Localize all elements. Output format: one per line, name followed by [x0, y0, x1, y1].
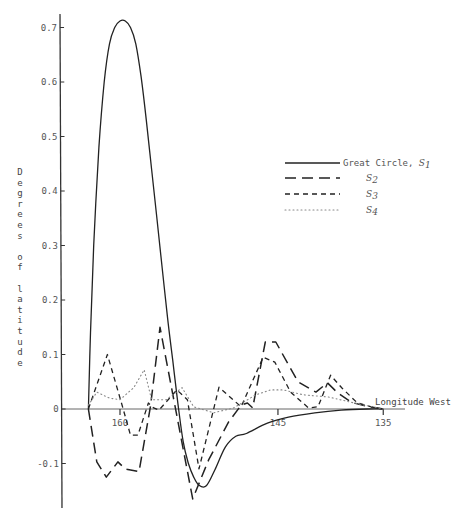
y-label-char: f: [17, 262, 22, 272]
series-s4: [88, 370, 383, 413]
y-label-char: t: [17, 326, 22, 336]
y-tick-label: 0.3: [42, 241, 58, 251]
series-great-circle-s1: [88, 20, 383, 487]
y-label-char: i: [17, 315, 22, 325]
chart-canvas: Degreesoflatitude 0.70.60.50.40.30.20.10…: [0, 0, 465, 521]
y-tick-label: 0.2: [42, 295, 58, 305]
y-label-char: s: [17, 231, 22, 241]
y-label-char: g: [17, 188, 22, 198]
y-tick-label: 0.6: [41, 77, 57, 87]
y-label-char: d: [17, 347, 22, 357]
y-axis-line: [60, 14, 62, 508]
x-tick-label: 160: [112, 418, 128, 428]
x-tick-label: 135: [375, 418, 391, 428]
y-tick-label: 0.7: [41, 23, 57, 33]
y-label-char: e: [17, 178, 22, 188]
y-label-char: l: [17, 284, 22, 294]
y-label-char: o: [17, 252, 22, 262]
y-label-char: e: [17, 220, 22, 230]
legend-label: S2: [366, 173, 378, 185]
series-group: [88, 20, 383, 499]
y-label-char: e: [17, 209, 22, 219]
series-s2: [88, 327, 383, 499]
y-label-char: t: [17, 305, 22, 315]
legend-label: Great Circle, S1: [343, 158, 431, 170]
legend-label: S4: [366, 205, 378, 217]
y-label-char: D: [17, 167, 22, 177]
y-label-char: a: [17, 294, 22, 304]
y-tick-label: -0.1: [37, 459, 59, 469]
y-label-char: u: [17, 337, 22, 347]
axes: [60, 14, 405, 508]
y-tick-label: 0.5: [41, 132, 57, 142]
y-tick-label: 0.4: [41, 186, 57, 196]
y-axis-label: Degreesoflatitude: [17, 167, 23, 368]
legend: Great Circle, S1S2S3S4: [285, 158, 431, 217]
y-label-char: r: [17, 199, 23, 209]
x-axis-label: Longitude West: [375, 397, 451, 407]
y-tick-label: 0.1: [42, 350, 58, 360]
y-label-char: e: [17, 358, 22, 368]
y-tick-label: 0: [53, 404, 58, 414]
legend-label: S3: [366, 189, 378, 201]
x-ticks: 160145135: [112, 409, 392, 428]
